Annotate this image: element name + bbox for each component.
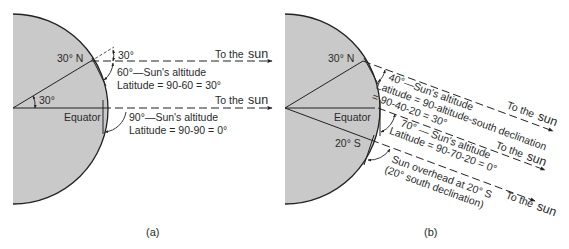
svg-text:To the: To the — [504, 189, 535, 210]
zenith-extension — [91, 47, 114, 61]
latitude-text-north: Latitude = 90-60 = 30° — [117, 79, 221, 91]
sun-altitude-latitude-figure: 30° N 30° 30° Equator 60°—Sun's altitude… — [0, 0, 569, 249]
svg-text:sun: sun — [248, 93, 268, 107]
panel-b: 30° N Equator 20° S 40°—Sun's altitude L… — [285, 14, 560, 238]
to-the-sun-label-equator: To the sun — [215, 93, 268, 107]
caption-b: (b) — [424, 226, 437, 238]
label-center-angle: 30° — [39, 94, 55, 106]
svg-text:sun: sun — [536, 109, 560, 129]
label-30n: 30° N — [328, 52, 354, 64]
altitude-angle-arc-north — [104, 63, 113, 80]
svg-text:To the: To the — [505, 99, 536, 120]
earth-half-disc — [13, 14, 108, 204]
label-equator: Equator — [334, 111, 371, 123]
panel-a: 30° N 30° 30° Equator 60°—Sun's altitude… — [13, 14, 272, 238]
label-equator: Equator — [64, 111, 101, 123]
label-30n: 30° N — [57, 52, 83, 64]
overhead-angle-arc-south — [368, 149, 390, 160]
altitude-text-equator: 90°—Sun's altitude — [129, 111, 218, 123]
label-zenith-angle: 30° — [118, 49, 134, 61]
svg-text:sun: sun — [248, 47, 268, 61]
svg-text:To the: To the — [215, 94, 244, 106]
zenith-angle-arc — [113, 50, 114, 61]
label-20s: 20° S — [335, 137, 361, 149]
svg-text:sun: sun — [525, 149, 549, 169]
to-the-sun-label-south: To the sun — [504, 188, 559, 220]
altitude-text-north: 60°—Sun's altitude — [117, 66, 206, 78]
caption-a: (a) — [146, 226, 159, 238]
to-the-sun-label-north: To the sun — [215, 47, 268, 61]
latitude-text-equator: Latitude = 90-90 = 0° — [129, 124, 227, 136]
svg-text:sun: sun — [535, 199, 559, 219]
earth-half-disc — [285, 14, 380, 204]
svg-text:To the: To the — [215, 48, 244, 60]
to-the-sun-label-north: To the sun — [505, 98, 560, 130]
